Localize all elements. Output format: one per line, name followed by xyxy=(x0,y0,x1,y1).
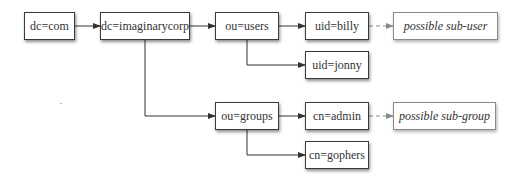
edge-groups-gophers xyxy=(247,130,305,155)
node-dc-com: dc=com xyxy=(24,12,75,40)
node-cn-gophers: cn=gophers xyxy=(305,141,369,169)
node-label: dc=imaginarycorp xyxy=(101,19,189,34)
node-ou-groups: ou=groups xyxy=(215,102,279,130)
edge-users-jonny xyxy=(247,40,305,65)
node-uid-jonny: uid=jonny xyxy=(305,51,369,79)
node-uid-billy: uid=billy xyxy=(305,12,369,40)
stray-dot xyxy=(60,103,62,104)
node-cn-admin: cn=admin xyxy=(305,102,369,130)
node-dc-imaginarycorp: dc=imaginarycorp xyxy=(100,12,190,40)
node-label: dc=com xyxy=(30,19,69,34)
node-label: possible sub-group xyxy=(399,109,490,124)
node-possible-sub-user: possible sub-user xyxy=(393,12,498,40)
node-label: uid=billy xyxy=(315,19,359,34)
node-label: cn=admin xyxy=(313,109,361,124)
node-label: cn=gophers xyxy=(309,148,365,163)
ldap-tree-diagram: dc=com dc=imaginarycorp ou=users uid=bil… xyxy=(0,0,523,183)
node-label: ou=users xyxy=(225,19,268,34)
node-possible-sub-group: possible sub-group xyxy=(393,102,496,130)
node-label: uid=jonny xyxy=(312,58,361,73)
node-ou-users: ou=users xyxy=(215,12,279,40)
node-label: possible sub-user xyxy=(404,19,488,34)
edge-imaginarycorp-groups xyxy=(145,40,215,116)
node-label: ou=groups xyxy=(221,109,272,124)
